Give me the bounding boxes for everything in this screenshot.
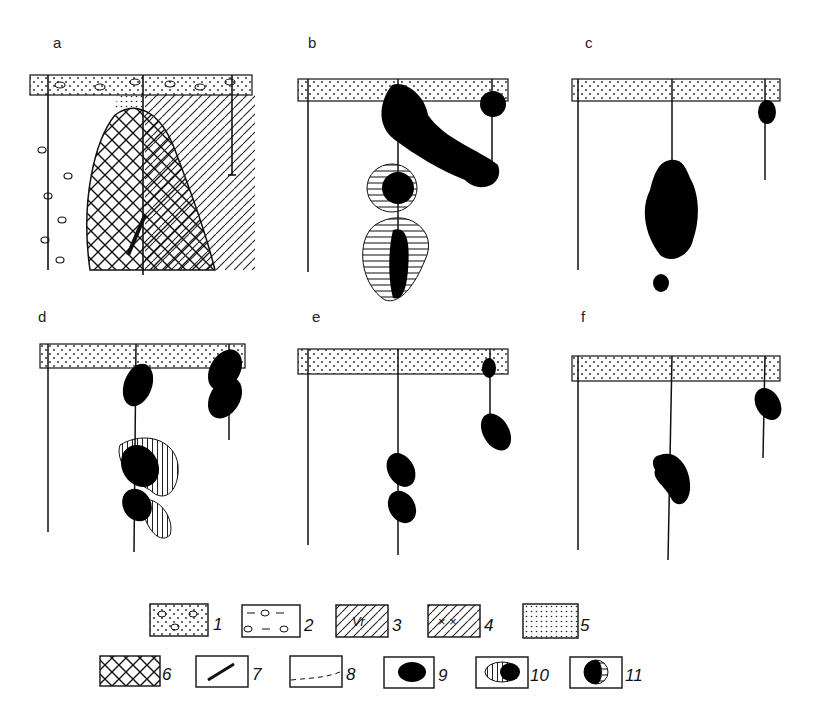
legend-item-5: 5 xyxy=(523,604,590,638)
svg-text:10: 10 xyxy=(530,666,549,685)
svg-text:11: 11 xyxy=(625,666,643,685)
panel-c: c xyxy=(572,34,780,292)
svg-text:4: 4 xyxy=(484,616,493,635)
svg-text:9: 9 xyxy=(438,666,448,685)
svg-text:3: 3 xyxy=(392,616,402,635)
svg-text:1: 1 xyxy=(213,615,222,634)
svg-text:Vr: Vr xyxy=(352,614,365,629)
legend-item-9: 9 xyxy=(384,657,448,688)
geology-figure: a b c xyxy=(0,0,822,723)
svg-text:8: 8 xyxy=(346,665,356,684)
panel-d: d xyxy=(38,308,249,552)
svg-text:5: 5 xyxy=(580,616,590,635)
legend-item-8: 8 xyxy=(290,656,356,687)
panel-label-c: c xyxy=(585,34,593,51)
panel-a: a xyxy=(30,34,255,275)
panel-b: b xyxy=(298,34,508,301)
svg-text:6: 6 xyxy=(162,665,172,684)
legend-item-2: 2 xyxy=(242,605,314,637)
panel-f: f xyxy=(572,308,787,560)
svg-text:2: 2 xyxy=(303,616,314,635)
legend-item-7: 7 xyxy=(196,656,262,687)
svg-text:7: 7 xyxy=(252,665,262,684)
legend: 1 2 Vr 3 × × 4 5 6 7 8 9 10 xyxy=(100,604,643,688)
legend-item-4: × × 4 xyxy=(428,605,493,637)
legend-item-6: 6 xyxy=(100,656,172,686)
legend-item-3: Vr 3 xyxy=(336,605,402,637)
panel-label-b: b xyxy=(308,34,316,51)
panel-label-d: d xyxy=(38,308,46,325)
panel-label-f: f xyxy=(581,308,586,325)
legend-item-11: 11 xyxy=(570,657,643,688)
panel-e: e xyxy=(298,308,517,555)
panel-label-a: a xyxy=(53,34,62,51)
svg-text:× ×: × × xyxy=(438,614,457,629)
panel-label-e: e xyxy=(312,308,320,325)
legend-item-1: 1 xyxy=(150,604,222,636)
legend-item-10: 10 xyxy=(476,657,549,688)
